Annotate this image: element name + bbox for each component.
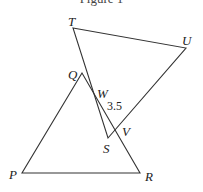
triangle-pqr — [22, 73, 140, 173]
label-p: P — [9, 168, 17, 181]
measurement-label: 3.5 — [107, 100, 122, 112]
label-t: T — [68, 15, 75, 28]
label-s: S — [103, 142, 110, 155]
triangle-tus — [73, 28, 186, 138]
label-r: R — [145, 170, 153, 183]
label-q: Q — [68, 68, 77, 81]
geometry-figure: Figure 1 T U Q W 3.5 V S P R — [0, 0, 203, 192]
label-v: V — [122, 125, 130, 138]
label-u: U — [182, 34, 191, 47]
